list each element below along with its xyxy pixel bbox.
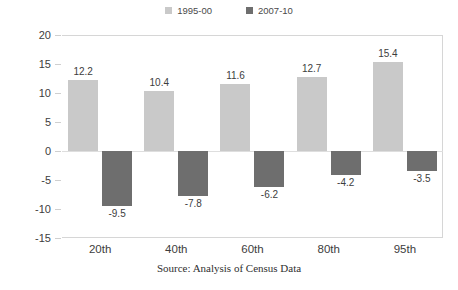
y-axis-label: 10	[39, 87, 51, 99]
legend-label: 2007-10	[258, 6, 293, 16]
x-axis-label: 60th	[216, 243, 290, 255]
bar-value-label: 15.4	[365, 48, 411, 59]
bar-value-label: 11.6	[213, 70, 259, 81]
y-axis-label: -5	[41, 174, 51, 186]
source-note: Source: Analysis of Census Data	[0, 262, 458, 274]
bar-value-label: 10.4	[136, 77, 182, 88]
bar-value-label: -4.2	[323, 177, 369, 188]
legend-item-2007-10: 2007-10	[246, 6, 293, 16]
legend-item-1995-00: 1995-00	[165, 6, 212, 16]
bar-group: 12.7-4.2	[291, 35, 367, 238]
legend-swatch-icon	[165, 7, 172, 14]
bar-2007-10[interactable]	[178, 151, 208, 196]
chart-legend: 1995-00 2007-10	[0, 6, 458, 16]
y-axis-tick	[55, 35, 61, 36]
y-axis-label: -10	[35, 203, 51, 215]
bar-group: 12.2-9.5	[62, 35, 138, 238]
y-axis-label: 5	[45, 116, 51, 128]
y-axis-tick	[55, 209, 61, 210]
bar-value-label: 12.2	[60, 66, 106, 77]
bar-1995-00[interactable]	[373, 62, 403, 151]
bar-chart: 1995-00 2007-10 Percent 20151050-5-10-15…	[0, 0, 458, 290]
bar-1995-00[interactable]	[297, 77, 327, 151]
legend-label: 1995-00	[177, 6, 212, 16]
y-axis-tick	[55, 64, 61, 65]
x-axis-label: 20th	[63, 243, 137, 255]
y-axis-tick	[55, 180, 61, 181]
y-axis-label: -15	[35, 232, 51, 244]
y-axis-tick	[55, 151, 61, 152]
bar-group: 15.4-3.5	[367, 35, 443, 238]
bar-value-label: -3.5	[399, 173, 445, 184]
y-axis-tick	[55, 93, 61, 94]
y-axis-label: 0	[45, 145, 51, 157]
bar-2007-10[interactable]	[102, 151, 132, 206]
plot-area: 20151050-5-10-15 12.2-9.510.4-7.811.6-6.…	[62, 35, 443, 238]
bar-2007-10[interactable]	[407, 151, 437, 171]
bar-1995-00[interactable]	[144, 91, 174, 151]
bar-value-label: -9.5	[94, 208, 140, 219]
bar-group: 11.6-6.2	[214, 35, 290, 238]
bar-1995-00[interactable]	[220, 84, 250, 151]
y-axis-tick	[55, 122, 61, 123]
bar-2007-10[interactable]	[254, 151, 284, 187]
bar-1995-00[interactable]	[68, 80, 98, 151]
x-axis-label: 40th	[139, 243, 213, 255]
bar-value-label: -6.2	[246, 189, 292, 200]
y-axis-label: 20	[39, 29, 51, 41]
legend-swatch-icon	[246, 7, 253, 14]
y-axis-label: 15	[39, 58, 51, 70]
y-axis-tick	[55, 238, 61, 239]
x-axis-label: 95th	[368, 243, 442, 255]
x-axis-label: 80th	[292, 243, 366, 255]
bar-group: 10.4-7.8	[138, 35, 214, 238]
bar-value-label: 12.7	[289, 63, 335, 74]
bar-2007-10[interactable]	[331, 151, 361, 175]
bar-groups: 12.2-9.510.4-7.811.6-6.212.7-4.215.4-3.5	[62, 35, 443, 238]
bar-value-label: -7.8	[170, 198, 216, 209]
